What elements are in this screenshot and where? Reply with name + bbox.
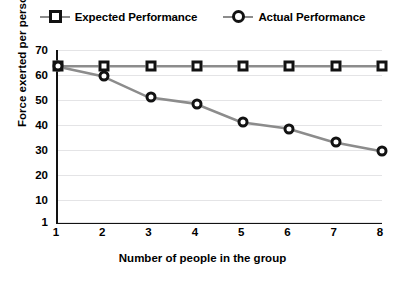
y-tick-label: 20	[22, 169, 48, 181]
legend-item-expected-performance: Expected Performance	[40, 10, 198, 23]
data-point-square	[145, 61, 156, 72]
legend-label-actual-performance: Actual Performance	[258, 11, 365, 23]
legend-swatch-square	[40, 10, 70, 23]
chart-legend: Expected Performance Actual Performance	[0, 10, 405, 23]
x-tick-label: 8	[370, 226, 390, 238]
gridline	[58, 175, 382, 176]
y-axis-title: Force exerted per person	[14, 0, 30, 144]
data-point-circle	[53, 61, 64, 72]
data-point-circle	[284, 123, 295, 134]
data-point-circle	[330, 137, 341, 148]
data-point-square	[284, 61, 295, 72]
legend-item-actual-performance: Actual Performance	[223, 10, 365, 23]
x-tick-label: 5	[231, 226, 251, 238]
data-point-square	[238, 61, 249, 72]
data-point-square	[191, 61, 202, 72]
y-tick-label: 1	[22, 216, 48, 228]
gridline	[58, 50, 382, 51]
x-tick-label: 6	[277, 226, 297, 238]
data-point-circle	[145, 92, 156, 103]
x-tick-label: 2	[92, 226, 112, 238]
square-marker-icon	[49, 10, 62, 23]
x-tick-label: 1	[46, 226, 66, 238]
data-point-circle	[377, 145, 388, 156]
plot-area	[56, 50, 382, 224]
data-point-circle	[99, 71, 110, 82]
y-tick-label: 10	[22, 194, 48, 206]
x-tick-label: 7	[324, 226, 344, 238]
x-tick-label: 3	[139, 226, 159, 238]
x-axis-title: Number of people in the group	[0, 252, 405, 264]
chart-container: Expected Performance Actual Performance …	[0, 0, 405, 282]
y-tick-label: 30	[22, 144, 48, 156]
data-point-square	[330, 61, 341, 72]
gridline	[58, 200, 382, 201]
gridline	[58, 125, 382, 126]
gridline	[58, 150, 382, 151]
data-point-circle	[191, 98, 202, 109]
circle-marker-icon	[232, 10, 245, 23]
legend-swatch-circle	[223, 10, 253, 23]
data-point-square	[377, 61, 388, 72]
gridline	[58, 100, 382, 101]
data-point-circle	[238, 117, 249, 128]
gridline	[58, 222, 382, 223]
legend-label-expected-performance: Expected Performance	[75, 11, 198, 23]
x-tick-label: 4	[185, 226, 205, 238]
